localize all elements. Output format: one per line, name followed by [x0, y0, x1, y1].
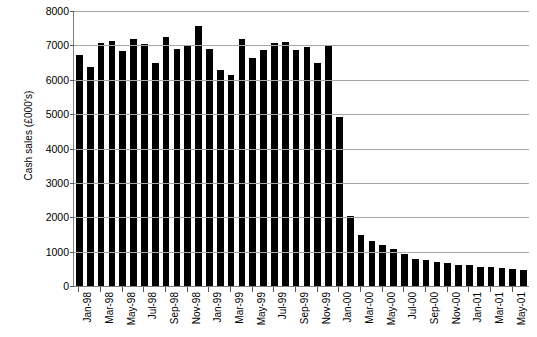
y-tick-label: 4000 — [46, 143, 69, 155]
x-tick-label: Nov-98 — [191, 292, 202, 324]
y-tick-mark — [70, 217, 74, 218]
bar — [239, 39, 246, 287]
bar — [444, 263, 451, 286]
x-tick-label: Nov-00 — [451, 292, 462, 324]
y-tick-label: 6000 — [46, 74, 69, 86]
y-tick-label: 2000 — [46, 211, 69, 223]
bar — [304, 47, 311, 286]
y-tick-label: 0 — [63, 280, 69, 292]
x-tick-label: Jan-98 — [82, 292, 93, 323]
y-tick-mark — [70, 11, 74, 12]
x-tick-label: Jan-00 — [342, 292, 353, 323]
bar — [217, 70, 224, 286]
x-axis-labels: Jan-98Mar-98May-98Jul-98Sep-98Nov-98Jan-… — [73, 292, 528, 337]
x-tick-label: Mar-01 — [494, 292, 505, 324]
x-tick-label: May-00 — [386, 292, 397, 325]
bar — [163, 37, 170, 286]
bar — [293, 50, 300, 287]
bar — [401, 254, 408, 286]
y-tick-label: 7000 — [46, 39, 69, 51]
x-tick-label: Mar-00 — [364, 292, 375, 324]
y-tick-mark — [70, 114, 74, 115]
plot-area: 010002000300040005000600070008000 — [73, 11, 529, 287]
gridline — [74, 80, 529, 81]
x-tick-label: May-99 — [256, 292, 267, 325]
x-tick-label: Jul-99 — [277, 292, 288, 319]
gridline — [74, 45, 529, 46]
x-tick-label: Nov-99 — [321, 292, 332, 324]
bar — [434, 262, 441, 286]
y-tick-mark — [70, 80, 74, 81]
y-tick-mark — [70, 45, 74, 46]
gridline — [74, 114, 529, 115]
bar — [358, 235, 365, 286]
x-tick-label: Mar-98 — [104, 292, 115, 324]
bar — [130, 39, 137, 287]
y-tick-mark — [70, 149, 74, 150]
x-tick-label: May-98 — [126, 292, 137, 325]
bar — [423, 260, 430, 286]
y-tick-mark — [70, 183, 74, 184]
bar-chart: Cash sales (£000's) 01000200030004000500… — [0, 0, 537, 337]
bar — [282, 42, 289, 286]
bar — [455, 265, 462, 286]
y-axis-title: Cash sales (£000's) — [23, 56, 34, 216]
bar — [109, 41, 116, 286]
bar — [174, 49, 181, 286]
bar — [325, 45, 332, 286]
bar — [499, 268, 506, 286]
gridline — [74, 149, 529, 150]
bar — [390, 249, 397, 286]
bar — [509, 269, 516, 286]
bar — [228, 75, 235, 286]
bar — [260, 50, 267, 287]
bar — [520, 270, 527, 287]
x-tick-label: Jan-99 — [212, 292, 223, 323]
bar — [488, 267, 495, 286]
y-tick-label: 3000 — [46, 177, 69, 189]
x-tick-label: Jul-00 — [407, 292, 418, 319]
bar — [369, 241, 376, 286]
y-tick-label: 5000 — [46, 108, 69, 120]
x-tick-label: May-01 — [516, 292, 527, 325]
bar — [466, 265, 473, 286]
y-tick-label: 8000 — [46, 5, 69, 17]
bar — [336, 117, 343, 286]
x-tick-label: Jul-98 — [147, 292, 158, 319]
x-tick-label: Sep-00 — [429, 292, 440, 324]
bar — [206, 49, 213, 286]
y-tick-label: 1000 — [46, 246, 69, 258]
bar — [412, 259, 419, 287]
x-tick-label: Sep-98 — [169, 292, 180, 324]
gridline — [74, 252, 529, 253]
y-tick-mark — [70, 252, 74, 253]
x-tick-label: Sep-99 — [299, 292, 310, 324]
bar — [195, 26, 202, 286]
bar — [184, 46, 191, 286]
gridline — [74, 11, 529, 12]
x-tick-label: Jan-01 — [472, 292, 483, 323]
bar — [477, 267, 484, 286]
gridline — [74, 217, 529, 218]
x-tick-label: Mar-99 — [234, 292, 245, 324]
bar — [87, 67, 94, 286]
gridline — [74, 183, 529, 184]
